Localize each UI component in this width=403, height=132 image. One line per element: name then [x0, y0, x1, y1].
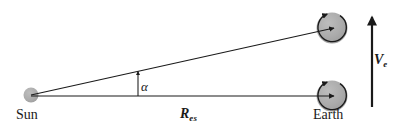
v-e-velocity-label: Ve	[374, 53, 388, 69]
earth-label: Earth	[313, 108, 343, 122]
alpha-angle-label: α	[141, 80, 148, 93]
r-es-symbol: R	[180, 106, 189, 121]
r-es-subscript: es	[189, 113, 197, 123]
sun-label: Sun	[16, 108, 38, 122]
v-e-subscript: e	[383, 59, 387, 69]
r-es-distance-label: Res	[180, 107, 197, 123]
figure-canvas: Sun Earth α Res Ve	[0, 0, 403, 132]
sun-to-earth-sightline-arrow	[31, 28, 334, 95]
v-e-symbol: V	[374, 52, 383, 67]
